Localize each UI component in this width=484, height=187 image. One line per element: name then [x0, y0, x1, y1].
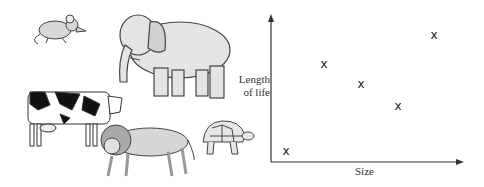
data-point-marker: x	[320, 58, 327, 70]
mouse-icon	[34, 15, 86, 44]
data-point-marker: x	[282, 145, 289, 157]
data-point-marker: x	[394, 100, 401, 112]
x-axis-label: Size	[355, 165, 374, 177]
y-axis-label: Length of life	[226, 73, 270, 99]
tortoise-icon	[203, 121, 254, 154]
data-point-marker: x	[357, 78, 364, 90]
y-axis-label-line-2: of life	[226, 86, 270, 99]
data-point-marker: x	[430, 29, 437, 41]
y-axis-label-line-1: Length	[226, 73, 270, 86]
lion-icon	[101, 125, 194, 176]
elephant-icon	[120, 15, 230, 98]
